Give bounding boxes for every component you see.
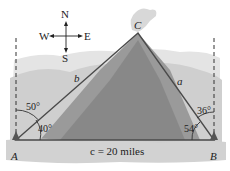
side-c-label: c = 20 miles [90, 146, 144, 157]
vertex-b-label: B [210, 151, 217, 162]
compass-arrow-e-icon [78, 34, 83, 38]
compass-s-label: S [62, 53, 68, 64]
compass-arrow-n-icon [64, 21, 68, 26]
side-b-label: b [74, 73, 80, 84]
triangle-diagram: N S E W C A B b a c = 20 miles 50° 40° 3… [0, 0, 230, 171]
angle-a-north-label: 50° [26, 102, 40, 112]
compass-arrow-w-icon [49, 34, 54, 38]
vertex-c-label: C [134, 20, 141, 31]
compass-n-label: N [61, 9, 69, 20]
angle-b-interior-label: 54° [184, 124, 198, 134]
compass-w-label: W [39, 31, 49, 42]
angle-a-interior-label: 40° [38, 124, 52, 134]
side-a-label: a [177, 76, 183, 87]
vertex-a-label: A [11, 151, 18, 162]
angle-b-north-label: 36° [197, 106, 211, 116]
compass-e-label: E [84, 31, 91, 42]
